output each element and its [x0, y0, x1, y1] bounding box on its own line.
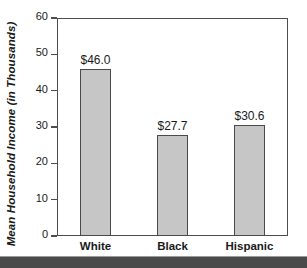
bar: $46.0 — [80, 69, 111, 236]
bar: $27.7 — [157, 135, 188, 236]
y-axis-tick-mark — [51, 54, 57, 56]
bar-value-label: $27.7 — [157, 119, 187, 133]
y-axis-tick-label: 0 — [42, 228, 48, 240]
y-axis-tick-label: 30 — [36, 119, 48, 131]
y-axis-tick-mark — [51, 199, 57, 201]
y-axis-tick-label: 20 — [36, 155, 48, 167]
y-axis-tick-mark — [51, 90, 57, 92]
y-axis-tick-label: 50 — [36, 46, 48, 58]
y-axis-tick-mark — [51, 235, 57, 237]
y-axis-tick-label: 40 — [36, 83, 48, 95]
footer-band — [0, 257, 307, 268]
x-axis-category-label: White — [80, 240, 111, 252]
bar-chart-figure: Mean Household Income (in Thousands) 010… — [0, 0, 307, 268]
y-axis-tick-mark — [51, 126, 57, 128]
y-axis-tick-label: 10 — [36, 192, 48, 204]
x-axis-category-label: Hispanic — [226, 240, 274, 252]
y-axis-tick-mark — [51, 17, 57, 19]
bar: $30.6 — [234, 125, 265, 236]
bar-value-label: $30.6 — [234, 109, 264, 123]
y-axis-title: Mean Household Income (in Thousands) — [0, 0, 22, 268]
y-axis-tick-label: 60 — [36, 10, 48, 22]
bar-value-label: $46.0 — [80, 53, 110, 67]
y-axis-tick-mark — [51, 163, 57, 165]
x-axis-category-label: Black — [157, 240, 188, 252]
